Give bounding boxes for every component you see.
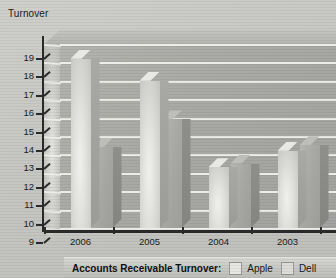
x-axis-tick bbox=[182, 227, 184, 234]
y-axis-tick-label: 11 bbox=[8, 199, 34, 210]
y-axis-tick-label: 10 bbox=[8, 218, 34, 229]
y-axis-tick-label: 12 bbox=[8, 181, 34, 192]
y-axis-tick bbox=[36, 113, 43, 115]
plot-back-wall bbox=[60, 44, 336, 228]
legend-swatch-apple bbox=[229, 262, 242, 275]
x-axis-tick-label: 2005 bbox=[130, 236, 170, 247]
bar-side-face bbox=[91, 59, 100, 228]
gridline bbox=[60, 62, 336, 64]
legend-entry-dell[interactable]: Dell bbox=[281, 262, 316, 275]
legend-label-dell: Dell bbox=[299, 263, 316, 274]
y-axis-tick bbox=[36, 95, 43, 97]
y-axis-tick bbox=[36, 132, 43, 134]
y-axis-tick bbox=[36, 168, 43, 170]
bar bbox=[278, 151, 298, 228]
x-axis-tick-label: 2004 bbox=[199, 236, 239, 247]
bar-side-face bbox=[160, 81, 169, 228]
bar-front-face bbox=[278, 151, 298, 228]
x-axis-tick bbox=[113, 227, 115, 234]
y-axis-tick-label: 16 bbox=[8, 107, 34, 118]
y-axis-line bbox=[42, 36, 44, 232]
legend-entry-apple[interactable]: Apple bbox=[229, 262, 273, 275]
y-axis-tick-label: 17 bbox=[8, 89, 34, 100]
y-axis-tick bbox=[36, 150, 43, 152]
bar-front-face bbox=[140, 81, 160, 228]
y-axis-tick-label: 15 bbox=[8, 126, 34, 137]
bar-front-face bbox=[209, 167, 229, 228]
gridline bbox=[60, 118, 336, 120]
bar-side-face bbox=[251, 164, 260, 228]
legend: Accounts Receivable Turnover: Apple Dell bbox=[64, 257, 336, 278]
bar-side-face bbox=[298, 151, 307, 228]
y-axis-tick bbox=[36, 187, 43, 189]
y-axis-tick-label: 13 bbox=[8, 162, 34, 173]
y-axis: 191817161514131211109 bbox=[2, 0, 34, 278]
x-axis-tick bbox=[44, 227, 46, 234]
gridline bbox=[60, 136, 336, 138]
bar-side-face bbox=[320, 145, 329, 228]
gridline bbox=[60, 99, 336, 101]
bar-side-face bbox=[182, 119, 191, 228]
y-axis-tick-label: 14 bbox=[8, 144, 34, 155]
gridline bbox=[60, 44, 336, 46]
y-axis-tick bbox=[36, 76, 43, 78]
y-axis-tick bbox=[36, 58, 43, 60]
legend-swatch-dell bbox=[281, 262, 294, 275]
y-axis-tick-label: 18 bbox=[8, 70, 34, 81]
plot-area bbox=[44, 30, 336, 230]
x-axis-tick-label: 2006 bbox=[61, 236, 101, 247]
bar-side-face bbox=[113, 147, 122, 228]
y-axis-tick bbox=[36, 242, 43, 244]
x-axis-tick bbox=[320, 227, 322, 234]
plot-top-face bbox=[44, 30, 336, 44]
bar bbox=[209, 167, 229, 228]
turnover-bar-chart: Turnover 191817161514131211109 Accounts … bbox=[0, 0, 336, 278]
bar-top-face bbox=[71, 50, 91, 59]
bar-front-face bbox=[71, 59, 91, 228]
bar-top-face bbox=[140, 72, 160, 81]
y-axis-tick-label: 19 bbox=[8, 52, 34, 63]
x-axis-tick bbox=[251, 227, 253, 234]
bar bbox=[140, 81, 160, 228]
x-axis-line bbox=[44, 230, 336, 233]
y-axis-tick-label: 9 bbox=[8, 236, 34, 247]
legend-title: Accounts Receivable Turnover: bbox=[72, 263, 221, 274]
legend-label-apple: Apple bbox=[247, 263, 273, 274]
y-axis-tick bbox=[36, 224, 43, 226]
y-axis-tick bbox=[36, 205, 43, 207]
bar bbox=[71, 59, 91, 228]
gridline bbox=[60, 81, 336, 83]
bar-side-face bbox=[229, 167, 238, 228]
bar-top-face bbox=[209, 158, 229, 167]
x-axis-tick-label: 2003 bbox=[268, 236, 308, 247]
bar-top-face bbox=[278, 142, 298, 151]
